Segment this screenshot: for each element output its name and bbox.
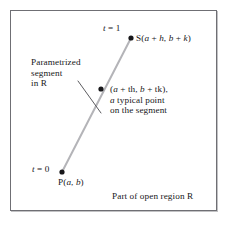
label-t-equals-1: t = 1 <box>103 23 120 34</box>
label-typical-point: (a + th, b + tk), a typical point on the… <box>110 84 168 116</box>
midpoint-desc-1: a typical point <box>110 95 168 106</box>
midpoint-desc-2: on the segment <box>110 105 168 116</box>
annotation-line-1: Parametrized <box>31 57 81 68</box>
label-point-s: S(a + h, b + k) <box>136 33 191 44</box>
figure-container: t = 1 S(a + h, b + k) Parametrized segme… <box>0 0 228 229</box>
label-t-equals-0: t = 0 <box>32 164 49 175</box>
figure-caption: Part of open region R <box>112 191 193 202</box>
label-parametrized-segment: Parametrized segment in R <box>31 57 81 89</box>
annotation-line-3: in R <box>31 78 81 89</box>
label-point-p: P(a, b) <box>58 177 84 188</box>
annotation-line-2: segment <box>31 68 81 79</box>
midpoint-coords: (a + th, b + tk), <box>110 84 168 95</box>
